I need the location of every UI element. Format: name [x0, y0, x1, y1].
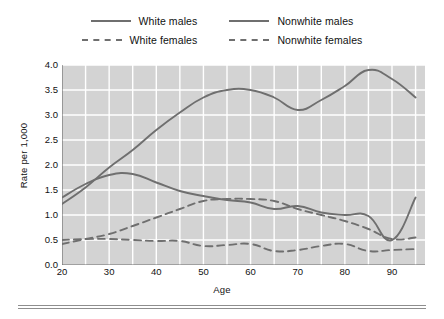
legend-swatch-nonwhite-males	[229, 20, 269, 22]
legend-label-nonwhite-males: Nonwhite males	[277, 15, 353, 27]
series-line-nonwhite-females	[62, 239, 416, 252]
x-tick-label: 50	[188, 266, 218, 277]
plot-area	[62, 65, 425, 265]
x-tick-label: 30	[94, 266, 124, 277]
legend-label-white-males: White males	[139, 15, 198, 27]
y-tick-label: 1.0	[24, 210, 58, 220]
footer-rule	[18, 305, 426, 309]
series-lines	[62, 70, 416, 252]
footer-rule-line-bottom	[18, 308, 426, 309]
legend-row-1: White males Nonwhite males	[0, 12, 444, 30]
legend-swatch-nonwhite-females	[229, 39, 269, 41]
y-tick-label: 4.0	[24, 60, 58, 70]
x-axis-label: Age	[0, 284, 444, 295]
legend-entry-nonwhite-females: Nonwhite females	[229, 34, 362, 46]
y-tick-label: 0.5	[24, 235, 58, 245]
x-tick-label: 40	[141, 266, 171, 277]
chart-legend: White males Nonwhite males White females…	[0, 12, 444, 52]
y-tick-label: 3.0	[24, 110, 58, 120]
legend-swatch-white-females	[82, 39, 122, 41]
x-tick-label: 70	[283, 266, 313, 277]
legend-label-white-females: White females	[130, 34, 198, 46]
footer-rule-line-top	[18, 305, 426, 306]
legend-entry-white-males: White males	[91, 15, 198, 27]
y-tick-label: 2.5	[24, 135, 58, 145]
x-tick-label: 60	[236, 266, 266, 277]
y-tick-label: 2.0	[24, 160, 58, 170]
legend-label-nonwhite-females: Nonwhite females	[277, 34, 362, 46]
legend-entry-white-females: White females	[82, 34, 198, 46]
legend-row-2: White females Nonwhite females	[0, 31, 444, 49]
series-line-white-males	[62, 173, 416, 240]
y-tick-label: 3.5	[24, 85, 58, 95]
legend-entry-nonwhite-males: Nonwhite males	[229, 15, 353, 27]
x-tick-label: 90	[377, 266, 407, 277]
x-axis-ticks: 2030405060708090	[0, 266, 444, 282]
gridlines	[62, 65, 425, 265]
x-tick-label: 80	[330, 266, 360, 277]
legend-swatch-white-males	[91, 20, 131, 22]
series-line-white-females	[62, 199, 416, 244]
x-tick-label: 20	[47, 266, 77, 277]
plot-svg	[62, 65, 425, 265]
y-tick-label: 1.5	[24, 185, 58, 195]
chart-figure: White males Nonwhite males White females…	[0, 0, 444, 319]
